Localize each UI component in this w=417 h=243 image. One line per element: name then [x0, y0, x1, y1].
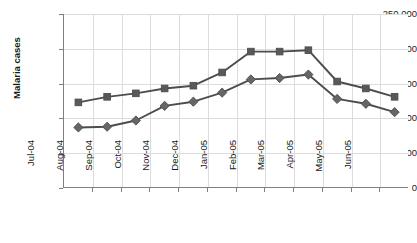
- data-point-square: [363, 85, 370, 92]
- x-axis-tick-label: Jun-05: [342, 140, 353, 196]
- x-axis-tick-label: Nov-04: [140, 140, 151, 196]
- x-axis-tick-label: Feb-05: [227, 140, 238, 196]
- x-axis-tick-label: Mar-05: [255, 140, 266, 196]
- x-axis-tick-label: Jan-05: [198, 140, 209, 196]
- series-line-upper-series: [78, 50, 394, 102]
- data-point-diamond: [103, 122, 112, 131]
- x-axis-tick-label: Jul-04: [25, 140, 36, 196]
- data-point-square: [190, 82, 197, 89]
- x-axis-tick-label: Apr-05: [284, 140, 295, 196]
- data-point-diamond: [246, 75, 255, 84]
- data-point-square: [75, 99, 82, 106]
- x-axis-tick-label: Aug-04: [54, 140, 65, 196]
- data-point-diamond: [390, 108, 399, 117]
- series-line-lower-series: [78, 75, 394, 128]
- data-point-square: [305, 47, 312, 54]
- data-point-square: [276, 48, 283, 55]
- y-axis-title: Malaria cases: [11, 13, 27, 123]
- data-point-diamond: [275, 73, 284, 82]
- x-axis-tick-mark: [379, 188, 380, 192]
- data-point-diamond: [160, 101, 169, 110]
- data-point-diamond: [131, 116, 140, 125]
- x-axis-tick-label: May-05: [313, 140, 324, 196]
- data-point-square: [334, 78, 341, 85]
- data-point-square: [248, 48, 255, 55]
- x-axis-tick-label: Sep-04: [83, 140, 94, 196]
- malaria-cases-line-chart: Malaria cases 250,000200,000150,000100,0…: [0, 0, 417, 243]
- data-point-square: [161, 85, 168, 92]
- data-point-diamond: [74, 123, 83, 132]
- x-axis-tick-label: Oct-04: [112, 140, 123, 196]
- x-axis-tick-label: Dec-04: [169, 140, 180, 196]
- data-point-square: [133, 90, 140, 97]
- data-point-diamond: [189, 97, 198, 106]
- data-point-square: [391, 94, 398, 101]
- data-point-square: [219, 69, 226, 76]
- data-point-diamond: [218, 88, 227, 97]
- data-point-square: [104, 94, 111, 101]
- data-point-diamond: [361, 99, 370, 108]
